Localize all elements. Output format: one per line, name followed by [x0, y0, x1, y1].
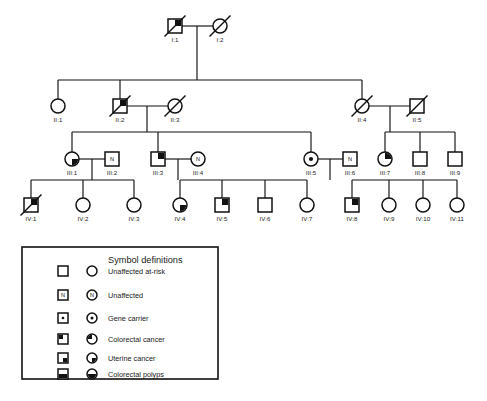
individual-id-label: IV:7 [301, 215, 313, 222]
individual-id-label: II:1 [54, 116, 63, 123]
quadrant-upper-right [352, 199, 358, 205]
individual-IV-10[interactable]: IV:10 [416, 198, 431, 222]
quadrant-upper-right [222, 199, 228, 205]
individual-III-9[interactable]: III:9 [448, 152, 462, 176]
individual-II-4[interactable]: II:4 [352, 96, 373, 123]
individual-id-label: III:7 [380, 169, 391, 176]
individual-IV-4[interactable]: IV:4 [173, 198, 187, 222]
connector-lines-layer [31, 26, 457, 200]
carrier-dot [91, 317, 94, 320]
individual-IV-9[interactable]: IV:9 [382, 198, 396, 222]
carrier-dot [309, 157, 313, 161]
individual-III-5[interactable]: III:5 [304, 152, 318, 176]
individual-id-label: III:4 [193, 169, 204, 176]
individual-id-label: I:2 [216, 36, 224, 43]
individual-id-label: I:1 [171, 36, 179, 43]
circle-symbol [416, 198, 430, 212]
circle-symbol [87, 266, 97, 276]
individual-IV-1[interactable]: IV:1 [21, 195, 42, 222]
individual-III-4[interactable]: NIII:4 [191, 152, 205, 176]
individual-I-2[interactable]: I:2 [210, 16, 231, 43]
circle-symbol [450, 198, 464, 212]
individual-IV-7[interactable]: IV:7 [300, 198, 314, 222]
square-symbol [58, 266, 68, 276]
individual-II-3[interactable]: II:3 [165, 96, 186, 123]
legend-row-label: Colorectal polyps [108, 370, 164, 379]
pedigree-figure: I:1I:2II:1II:2II:3II:4II:5III:1NIII:2III… [0, 0, 487, 401]
legend-row-label: Uterine cancer [108, 354, 156, 363]
individual-II-5[interactable]: II:5 [407, 96, 428, 123]
individual-id-label: II:4 [358, 116, 367, 123]
individual-id-label: III:9 [450, 169, 461, 176]
square-symbol [448, 152, 462, 166]
individual-id-label: III:6 [345, 169, 356, 176]
individual-IV-8[interactable]: IV:8 [345, 198, 359, 222]
carrier-dot [62, 317, 65, 320]
half-lower [59, 374, 67, 378]
legend-panel: Symbol definitionsUnaffected at-riskNNUn… [22, 247, 218, 379]
individual-III-8[interactable]: III:8 [413, 152, 427, 176]
individual-III-2[interactable]: NIII:2 [105, 152, 119, 176]
unaffected-letter: N [61, 292, 65, 298]
individual-III-7[interactable]: III:7 [378, 152, 392, 176]
unaffected-letter: N [348, 156, 352, 162]
individual-id-label: III:5 [306, 169, 317, 176]
unaffected-letter: N [110, 156, 114, 162]
individual-II-1[interactable]: II:1 [51, 99, 65, 123]
individual-id-label: IV:2 [77, 215, 89, 222]
individual-III-3[interactable]: III:3 [151, 152, 165, 176]
circle-symbol [382, 198, 396, 212]
individual-id-label: IV:5 [216, 215, 228, 222]
individual-symbols-layer: I:1I:2II:1II:2II:3II:4II:5III:1NIII:2III… [21, 16, 465, 222]
individual-I-1[interactable]: I:1 [165, 16, 186, 43]
individual-id-label: IV:4 [174, 215, 186, 222]
individual-id-label: IV:9 [383, 215, 395, 222]
quadrant-upper-left [59, 335, 63, 339]
legend-row-label: Gene carrier [108, 314, 149, 323]
individual-id-label: IV:11 [450, 215, 465, 222]
circle-symbol [127, 198, 141, 212]
individual-id-label: II:3 [171, 116, 180, 123]
individual-IV-6[interactable]: IV:6 [258, 198, 272, 222]
circle-symbol [76, 198, 90, 212]
individual-IV-11[interactable]: IV:11 [450, 198, 465, 222]
individual-id-label: IV:8 [346, 215, 358, 222]
individual-II-2[interactable]: II:2 [110, 96, 131, 123]
legend-row-label: Colorectal cancer [108, 335, 165, 344]
individual-id-label: III:3 [153, 169, 164, 176]
legend-row-label: Unaffected at-risk [108, 267, 165, 276]
individual-id-label: IV:3 [128, 215, 140, 222]
circle-symbol [300, 198, 314, 212]
individual-id-label: III:8 [415, 169, 426, 176]
individual-IV-5[interactable]: IV:5 [215, 198, 229, 222]
individual-III-1[interactable]: III:1 [65, 152, 79, 176]
individual-id-label: II:5 [413, 116, 422, 123]
square-symbol [413, 152, 427, 166]
individual-id-label: IV:10 [416, 215, 431, 222]
individual-id-label: II:2 [116, 116, 125, 123]
legend-title: Symbol definitions [108, 255, 183, 265]
circle-symbol [51, 99, 65, 113]
unaffected-letter: N [196, 156, 200, 162]
individual-id-label: IV:1 [25, 215, 37, 222]
individual-id-label: III:1 [67, 169, 78, 176]
unaffected-letter: N [90, 292, 94, 298]
quadrant-upper-right [158, 153, 164, 159]
individual-IV-3[interactable]: IV:3 [127, 198, 141, 222]
quadrant-lower-right [63, 358, 67, 362]
individual-id-label: III:2 [107, 169, 118, 176]
legend-row-label: Unaffected [108, 291, 143, 300]
pedigree-canvas: I:1I:2II:1II:2II:3II:4II:5III:1NIII:2III… [0, 0, 487, 401]
individual-id-label: IV:6 [259, 215, 271, 222]
individual-IV-2[interactable]: IV:2 [76, 198, 90, 222]
square-symbol [258, 198, 272, 212]
individual-III-6[interactable]: NIII:6 [343, 152, 357, 176]
